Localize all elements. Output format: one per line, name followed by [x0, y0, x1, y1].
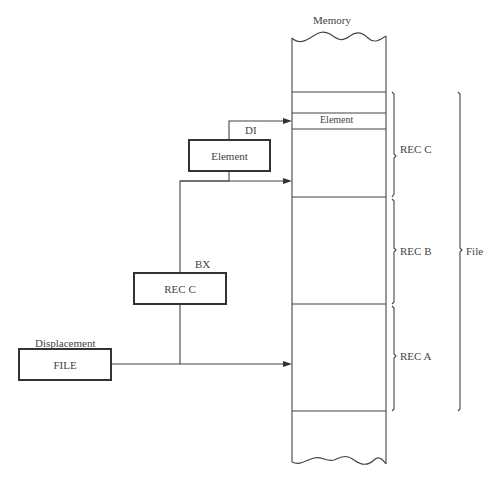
brace-label-rec-b: REC B: [400, 245, 431, 257]
brace-label-file: File: [466, 245, 483, 257]
arrowhead-element: [283, 178, 292, 184]
di-register-label: DI: [245, 124, 257, 136]
rec-c-box: REC C: [133, 272, 227, 305]
di-arrow-line: [229, 121, 288, 140]
arrowhead-file: [283, 361, 292, 367]
brace-file: [458, 92, 462, 411]
memory-bottom-break: [292, 457, 386, 465]
diagram-canvas: [0, 0, 500, 482]
brace-rec-a: [392, 306, 396, 411]
bx-register-label: BX: [195, 258, 210, 270]
file-box: FILE: [18, 348, 112, 381]
memory-top-break: [292, 32, 386, 42]
brace-rec-b: [392, 199, 396, 304]
arrowhead-di: [283, 118, 292, 124]
brace-label-rec-c: REC C: [400, 143, 431, 155]
brace-rec-c: [392, 92, 396, 197]
brace-label-rec-a: REC A: [400, 350, 431, 362]
memory-element-label: Element: [320, 114, 353, 125]
element-box: Element: [188, 139, 271, 172]
memory-title: Memory: [313, 14, 351, 26]
